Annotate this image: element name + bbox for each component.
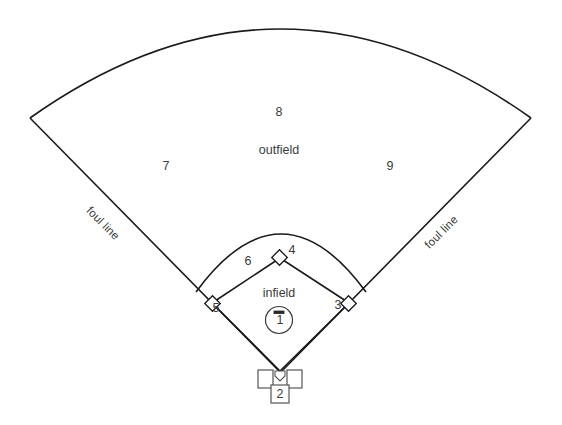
infield-label: infield [263,287,296,300]
position-label-1-pitcher: 1 [277,314,284,327]
home-plate-marker [275,371,285,381]
position-label-4-second-base: 4 [289,244,296,257]
position-label-5-third-base: 5 [213,302,220,315]
position-label-2-catcher: 2 [277,388,284,401]
position-label-9-right-field: 9 [387,160,394,173]
baseball-field-diagram: outfield infield foul line foul line 1 2… [0,0,562,425]
position-label-7-left-field: 7 [163,160,170,173]
position-label-6-shortstop: 6 [245,255,252,268]
position-label-3-first-base: 3 [335,299,342,312]
outfield-label: outfield [259,144,299,157]
second-base-marker [272,250,288,266]
position-label-8-center-field: 8 [276,106,283,119]
